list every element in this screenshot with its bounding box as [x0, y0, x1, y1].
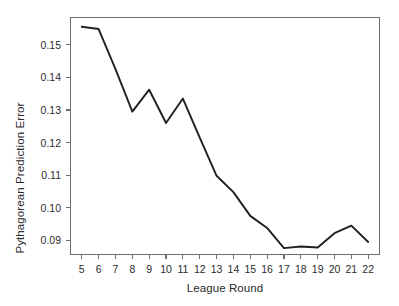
x-tick-label: 19: [306, 263, 330, 275]
y-tick-label: 0.10: [21, 202, 61, 214]
x-tick-mark: [149, 255, 150, 259]
x-tick-mark: [351, 255, 352, 259]
x-tick-mark: [81, 255, 82, 259]
x-axis-title-label: League Round: [187, 282, 264, 294]
x-tick-label: 17: [272, 263, 296, 275]
x-tick-mark: [267, 255, 268, 259]
x-tick-mark: [334, 255, 335, 259]
y-tick-label: 0.12: [21, 137, 61, 149]
x-tick-label: 21: [339, 263, 363, 275]
x-tick-mark: [115, 255, 116, 259]
x-tick-label: 20: [323, 263, 347, 275]
x-tick-mark: [250, 255, 251, 259]
y-axis-title: Pythagorean Prediction Error: [0, 0, 40, 306]
y-tick-label: 0.11: [21, 169, 61, 181]
x-tick-mark: [368, 255, 369, 259]
y-tick-label: 0.13: [21, 104, 61, 116]
y-tick-label: 0.15: [21, 39, 61, 51]
x-tick-mark: [300, 255, 301, 259]
y-tick-label: 0.14: [21, 71, 61, 83]
plot-canvas: [70, 17, 380, 255]
x-tick-mark: [199, 255, 200, 259]
chart-figure: Pythagorean Prediction Error 0.090.100.1…: [0, 0, 399, 306]
x-tick-mark: [182, 255, 183, 259]
data-series-line: [82, 27, 368, 248]
x-tick-label: 13: [205, 263, 229, 275]
x-tick-label: 22: [356, 263, 380, 275]
x-tick-label: 12: [188, 263, 212, 275]
x-tick-mark: [165, 255, 166, 259]
x-tick-label: 6: [87, 263, 111, 275]
x-tick-mark: [216, 255, 217, 259]
y-axis-title-label: Pythagorean Prediction Error: [14, 102, 26, 253]
x-tick-label: 18: [289, 263, 313, 275]
x-tick-mark: [98, 255, 99, 259]
x-tick-mark: [132, 255, 133, 259]
x-tick-label: 5: [70, 263, 94, 275]
x-tick-label: 14: [221, 263, 245, 275]
x-tick-label: 9: [137, 263, 161, 275]
x-axis-title: League Round: [70, 282, 380, 294]
x-tick-label: 10: [154, 263, 178, 275]
x-tick-mark: [317, 255, 318, 259]
x-tick-mark: [283, 255, 284, 259]
x-tick-label: 15: [238, 263, 262, 275]
x-tick-label: 11: [171, 263, 195, 275]
x-tick-label: 16: [255, 263, 279, 275]
y-tick-label: 0.09: [21, 234, 61, 246]
x-tick-label: 7: [103, 263, 127, 275]
x-tick-label: 8: [120, 263, 144, 275]
x-tick-mark: [233, 255, 234, 259]
